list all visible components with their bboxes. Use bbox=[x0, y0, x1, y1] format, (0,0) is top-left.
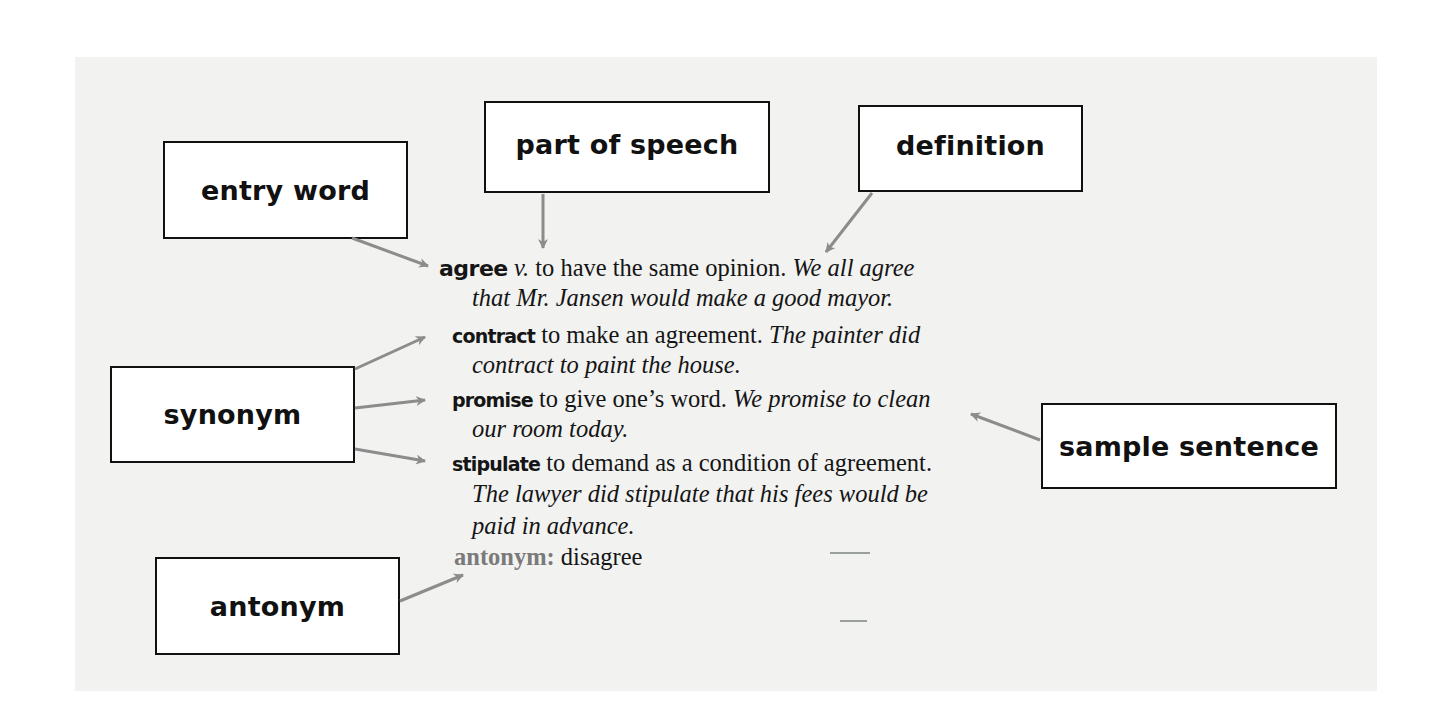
synonym-stipulate-line-2: The lawyer did stipulate that his fees w… bbox=[472, 479, 928, 508]
synonym-example-1: The lawyer did stipulate that his fees w… bbox=[472, 480, 928, 507]
antonym-line: antonym: disagree bbox=[454, 542, 642, 571]
synonym-definition: to give one’s word. bbox=[533, 385, 733, 412]
arrow-synonym-stipulate bbox=[355, 449, 425, 461]
arrow-synonym-promise bbox=[355, 400, 425, 408]
arrow-entry-word bbox=[352, 238, 428, 266]
print-mark bbox=[830, 552, 870, 554]
synonym-contract-line-1: contract to make an agreement. The paint… bbox=[452, 320, 920, 351]
entry-example-1: We all agree bbox=[792, 254, 914, 281]
arrow-sample-sentence bbox=[971, 414, 1040, 440]
print-mark bbox=[840, 620, 867, 622]
entry-definition: to have the same opinion. bbox=[529, 254, 792, 281]
entry-line-2: that Mr. Jansen would make a good mayor. bbox=[472, 283, 893, 312]
synonym-promise-line-2: our room today. bbox=[472, 414, 628, 443]
synonym-word: contract bbox=[452, 325, 535, 347]
synonym-example-2: contract to paint the house. bbox=[472, 351, 741, 378]
synonym-stipulate-line-3: paid in advance. bbox=[472, 511, 635, 540]
antonym-label: antonym: bbox=[454, 543, 555, 570]
synonym-word: stipulate bbox=[452, 453, 540, 475]
synonym-example-2: our room today. bbox=[472, 415, 628, 442]
entry-line-1: agree v. to have the same opinion. We al… bbox=[439, 253, 914, 283]
synonym-example-2: paid in advance. bbox=[472, 512, 635, 539]
entry-headword: agree bbox=[439, 256, 508, 281]
synonym-contract-line-2: contract to paint the house. bbox=[472, 350, 741, 379]
synonym-stipulate-line-1: stipulate to demand as a condition of ag… bbox=[452, 448, 932, 479]
synonym-definition: to make an agreement. bbox=[535, 321, 769, 348]
arrow-definition bbox=[826, 193, 872, 252]
entry-part-of-speech: v. bbox=[514, 254, 529, 281]
synonym-example-1: The painter did bbox=[769, 321, 920, 348]
synonym-definition: to demand as a condition of agreement. bbox=[540, 449, 932, 476]
entry-example-2: that Mr. Jansen would make a good mayor. bbox=[472, 284, 893, 311]
arrow-synonym-contract bbox=[355, 337, 425, 369]
synonym-promise-line-1: promise to give one’s word. We promise t… bbox=[452, 384, 931, 415]
synonym-example-1: We promise to clean bbox=[733, 385, 931, 412]
antonym-word: disagree bbox=[555, 543, 643, 570]
arrow-antonym bbox=[400, 575, 463, 601]
synonym-word: promise bbox=[452, 389, 533, 411]
